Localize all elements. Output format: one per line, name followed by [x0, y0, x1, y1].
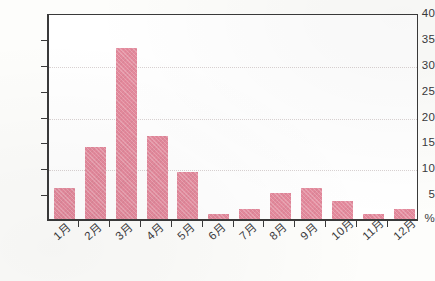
x-axis-tick-mark: [109, 221, 110, 227]
bar[interactable]: [177, 172, 198, 219]
bar[interactable]: [116, 48, 137, 219]
x-axis-category-label: 1月: [49, 219, 73, 243]
bar-slot: [266, 15, 295, 219]
bar[interactable]: [208, 214, 229, 219]
bar[interactable]: [239, 209, 260, 219]
bar[interactable]: [270, 193, 291, 219]
x-axis-category-label: 4月: [142, 219, 166, 243]
x-axis-category-label: 3月: [111, 219, 135, 243]
x-axis-tick-mark: [171, 221, 172, 227]
bar-slot: [50, 15, 79, 219]
x-axis-tick-mark: [140, 221, 141, 227]
x-axis-tick-mark: [233, 221, 234, 227]
bar[interactable]: [147, 136, 168, 219]
x-axis-category-label: 9月: [296, 219, 320, 243]
bar-slot: [173, 15, 202, 219]
x-axis-category-label: 6月: [204, 219, 228, 243]
bar-slot: [297, 15, 326, 219]
bar[interactable]: [54, 188, 75, 219]
x-axis-category-label: 2月: [80, 219, 104, 243]
x-axis-tick-mark: [325, 221, 326, 227]
x-axis-tick-mark: [263, 221, 264, 227]
bar-slot: [204, 15, 233, 219]
bar-slot: [143, 15, 172, 219]
bar[interactable]: [301, 188, 322, 219]
bar-slot: [359, 15, 388, 219]
bars-group: [49, 15, 417, 219]
x-axis-tick-mark: [294, 221, 295, 227]
x-axis-category-label: 7月: [235, 219, 259, 243]
bar-slot: [328, 15, 357, 219]
x-axis-tick-mark: [387, 221, 388, 227]
bar-slot: [81, 15, 110, 219]
x-axis-tick-mark: [78, 221, 79, 227]
x-axis-category-label: 8月: [265, 219, 289, 243]
bar-chart-figure: 403530252015105% 1月2月3月4月5月6月7月8月9月10月11…: [0, 0, 435, 281]
bar[interactable]: [85, 147, 106, 219]
x-axis-category-label: 5月: [173, 219, 197, 243]
bar-slot: [235, 15, 264, 219]
bar-slot: [112, 15, 141, 219]
plot-area: [47, 14, 418, 221]
bar-slot: [390, 15, 419, 219]
x-axis-tick-mark: [202, 221, 203, 227]
